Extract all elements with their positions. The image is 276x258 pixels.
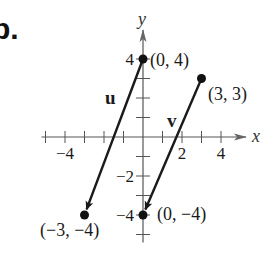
vector-v-arrow	[145, 79, 201, 210]
vector-v-end-point	[139, 211, 148, 220]
vector-v-start-label: (3, 3)	[208, 84, 247, 105]
vector-v-start-point	[197, 74, 206, 83]
x-axis-label: x	[251, 126, 260, 146]
vector-u-start-label: (0, 4)	[150, 50, 189, 71]
y-axis-label: y	[136, 9, 146, 29]
x-tick-label: 4	[217, 144, 226, 163]
vector-v-end-label: (0, −4)	[157, 204, 206, 225]
y-tick-label: −2	[116, 167, 134, 186]
vector-u-end-point	[80, 211, 89, 220]
vector-u-start-point	[139, 55, 148, 64]
vector-v-label: v	[167, 110, 177, 131]
y-tick-label: −4	[116, 206, 135, 225]
vector-u-arrow	[87, 59, 143, 209]
vector-v: v (3, 3) (0, −4)	[139, 74, 248, 225]
vector-u-label: u	[105, 87, 116, 108]
vector-u-end-label: (−3, −4)	[40, 220, 99, 241]
part-label: b.	[0, 12, 19, 45]
x-tick-label: −4	[56, 144, 75, 163]
vector-diagram: b. −4244−2−4 x y u (0, 4) (−3, −4) v (3,…	[0, 0, 276, 258]
y-tick-label: 4	[126, 50, 135, 69]
x-tick-label: 2	[178, 144, 187, 163]
